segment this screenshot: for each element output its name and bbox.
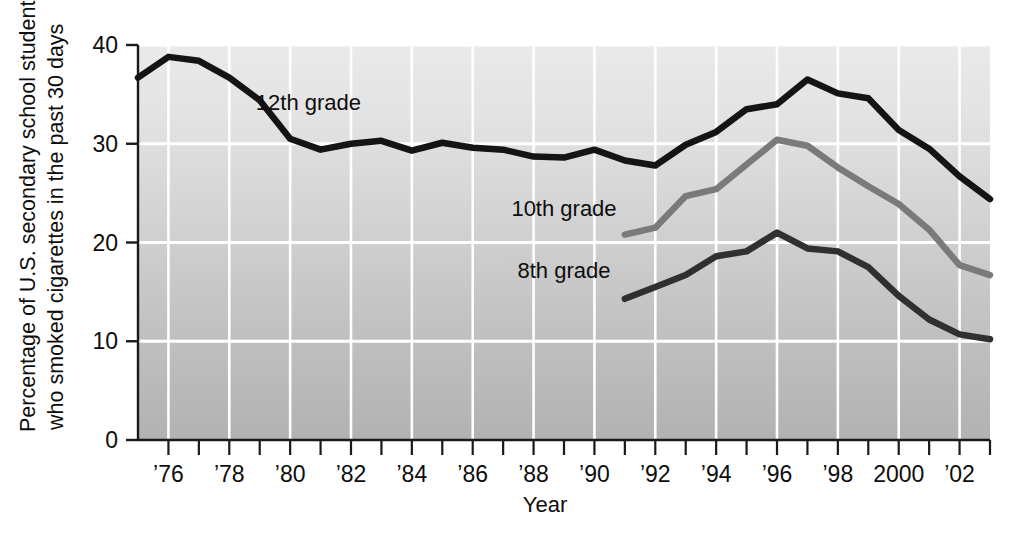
x-tick-label: ’94 — [701, 461, 732, 487]
x-tick-label: ’80 — [275, 461, 306, 487]
y-tick-label: 40 — [92, 32, 118, 58]
series-label-12th-grade: 12th grade — [256, 90, 361, 115]
x-axis-ticks: ’76’78’80’82’84’86’88’90’92’94’96’982000… — [153, 440, 990, 487]
x-tick-label: ’92 — [640, 461, 671, 487]
x-axis-title: Year — [523, 492, 567, 517]
y-tick-label: 0 — [105, 427, 118, 453]
y-axis-ticks: 010203040 — [92, 32, 138, 453]
y-axis-title: Percentage of U.S. secondary school stud… — [16, 0, 68, 432]
series-label-10th-grade: 10th grade — [511, 196, 616, 221]
y-tick-label: 20 — [92, 230, 118, 256]
x-tick-label: ’02 — [944, 461, 975, 487]
x-tick-label: ’88 — [518, 461, 549, 487]
y-tick-label: 30 — [92, 131, 118, 157]
x-tick-label: ’90 — [579, 461, 610, 487]
x-tick-label: ’96 — [762, 461, 793, 487]
x-tick-label: ’82 — [336, 461, 367, 487]
x-tick-label: ’78 — [214, 461, 245, 487]
y-axis-title-line1: Percentage of U.S. secondary school stud… — [16, 0, 40, 432]
y-axis-title-line2: who smoked cigarettes in the past 30 day… — [44, 24, 68, 431]
x-tick-label: 2000 — [873, 461, 924, 487]
x-tick-label: ’84 — [397, 461, 428, 487]
series-label-8th-grade: 8th grade — [518, 258, 611, 283]
x-tick-label: ’98 — [823, 461, 854, 487]
x-tick-label: ’86 — [457, 461, 488, 487]
smoking-prevalence-line-chart: 010203040 ’76’78’80’82’84’86’88’90’92’94… — [0, 0, 1029, 554]
x-tick-label: ’76 — [153, 461, 184, 487]
y-tick-label: 10 — [92, 328, 118, 354]
